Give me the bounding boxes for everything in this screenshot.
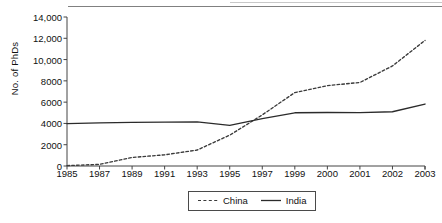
series-line-china (67, 40, 425, 165)
legend-item-india: India (261, 195, 307, 206)
x-axis-tick-1995: 1995 (219, 168, 240, 179)
x-axis-tick-1985: 1985 (56, 168, 77, 179)
legend-swatch-solid-icon (261, 197, 281, 204)
chart-figure: No. of PhDs 0200040006000800010,00012,00… (0, 0, 442, 223)
x-axis-tick-labels: 1985198719891991199319951997199920002001… (0, 168, 442, 184)
x-axis-tick-1991: 1991 (154, 168, 175, 179)
x-axis-tick-1997: 1997 (252, 168, 273, 179)
series-line-india (67, 104, 425, 125)
x-axis-tick-2001: 2001 (349, 168, 370, 179)
legend-swatch-dashed-icon (198, 197, 218, 204)
x-axis-tick-1989: 1989 (122, 168, 143, 179)
chart-axes (67, 17, 425, 166)
x-axis-tick-1999: 1999 (284, 168, 305, 179)
x-axis-tick-1993: 1993 (187, 168, 208, 179)
x-axis-tick-1987: 1987 (89, 168, 110, 179)
legend-label-china: China (223, 195, 248, 206)
x-axis-tick-2002: 2002 (382, 168, 403, 179)
chart-legend: China India (188, 191, 316, 211)
legend-item-china: China (198, 195, 248, 206)
x-axis-tick-2003: 2003 (414, 168, 435, 179)
chart-series-group (67, 40, 425, 165)
chart-plot-area (0, 0, 442, 223)
chart-tick-marks (64, 17, 426, 170)
legend-label-india: India (286, 195, 307, 206)
x-axis-tick-2000: 2000 (317, 168, 338, 179)
